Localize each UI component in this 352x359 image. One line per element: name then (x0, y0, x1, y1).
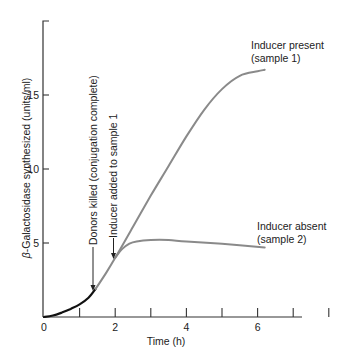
x-ticks (80, 308, 329, 317)
annotation-inducer-added: Inducer added to sample 1 (107, 114, 119, 259)
chart: 0246 51015 Time (h) β-Galactosidase synt… (0, 0, 352, 359)
y-ticks (43, 95, 49, 243)
y-tick-label: 5 (33, 237, 39, 249)
label-sample-1-line2: (sample 1) (251, 52, 301, 64)
label-sample-1-line1: Inducer present (251, 39, 324, 51)
y-axis-label-text: -Galactosidase synthesized (units/ml) (20, 78, 32, 253)
annotation-donors-killed-text: Donors killed (conjugation complete) (87, 75, 99, 245)
x-tick-label: 2 (112, 321, 118, 333)
label-sample-1: Inducer present (sample 1) (251, 39, 324, 64)
annotation-inducer-added-text: Inducer added to sample 1 (107, 114, 119, 238)
series-pre-kill-line (44, 289, 96, 317)
label-sample-2-line1: Inducer absent (257, 220, 327, 232)
x-tick-label: 4 (183, 321, 189, 333)
label-sample-2: Inducer absent (sample 2) (257, 220, 327, 245)
annotation-donors-killed: Donors killed (conjugation complete) (87, 75, 99, 291)
y-axis-label: β-Galactosidase synthesized (units/ml) (20, 78, 32, 260)
x-tick-label: 6 (255, 321, 261, 333)
label-sample-2-line2: (sample 2) (257, 233, 307, 245)
axes (43, 21, 302, 317)
x-tick-label: 0 (41, 321, 47, 333)
series-lines (44, 70, 265, 317)
beta-symbol: β (20, 252, 32, 259)
series-inducer-present-line (96, 70, 265, 289)
x-tick-labels: 0246 (41, 321, 261, 333)
series-inducer-absent-line (115, 240, 265, 258)
x-axis-label: Time (h) (147, 335, 186, 347)
